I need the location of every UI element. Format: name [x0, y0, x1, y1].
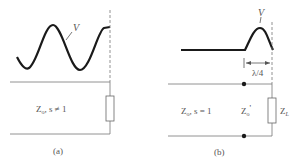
panel-b: V λ/4 Zo, s = 1 Zo' ZL (b) — [168, 7, 290, 157]
load-resistor-b — [268, 98, 276, 123]
load-label: ZL — [280, 106, 290, 117]
caption-a: (a) — [53, 146, 63, 156]
voltage-wave-b — [181, 28, 273, 50]
junction-dot-top — [242, 82, 246, 86]
line-label-a: Zo, s ≠ 1 — [36, 104, 66, 115]
line-label-b: Zo, s = 1 — [181, 106, 212, 117]
panel-a: V Zo, s ≠ 1 (a) — [10, 10, 114, 156]
load-resistor-a — [106, 96, 114, 121]
junction-dot-bottom — [242, 134, 246, 138]
quarter-wave-label: λ/4 — [252, 68, 264, 78]
transformer-label: Zo' — [241, 103, 252, 117]
caption-b: (b) — [214, 147, 225, 157]
voltage-label-b: V — [258, 7, 266, 18]
voltage-label-a: V — [73, 22, 81, 33]
voltage-wave-a — [17, 25, 110, 70]
